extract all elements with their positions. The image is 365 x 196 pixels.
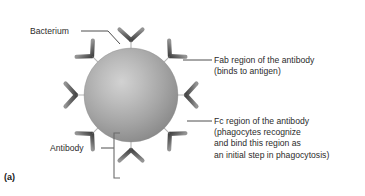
label-fab-region: Fab region of the antibody (binds to ant… [214,55,314,77]
figure-panel: Bacterium Antibody Fab region of the ant… [0,0,365,196]
label-antibody: Antibody [50,143,84,154]
label-bacterium: Bacterium [30,26,69,37]
leader-bacterium [81,31,120,44]
panel-letter: (a) [4,172,15,182]
label-fc-region: Fc region of the antibody (phagocytes re… [214,116,329,161]
bacterium-cell [84,48,178,142]
